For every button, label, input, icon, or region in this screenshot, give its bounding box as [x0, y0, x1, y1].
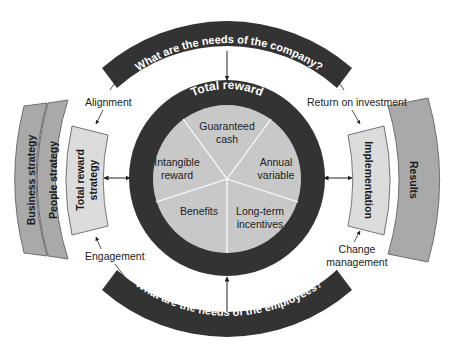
engagement-arrow [96, 237, 101, 249]
alignment-arrow [96, 110, 103, 124]
roi-label: Return on investment [307, 96, 407, 108]
segment-guaranteed-cash-l2: cash [216, 133, 238, 145]
total-reward-strategy-label-2: strategy [87, 159, 99, 200]
implementation-label: Implementation [363, 141, 375, 219]
segment-intangible-reward-l1: Intangible [154, 156, 200, 168]
alignment-label: Alignment [85, 96, 132, 108]
roi-arrow [352, 110, 360, 124]
segment-annual-variable-l1: Annual [260, 156, 293, 168]
segment-guaranteed-cash-l1: Guaranteed [199, 120, 255, 132]
segment-long-term-incentives-l1: Long-term [236, 205, 284, 217]
business-strategy-label: Business strategy [25, 135, 37, 226]
change-management-label-2: management [326, 256, 387, 268]
total-reward-diagram: What are the needs of the company? What … [0, 0, 451, 355]
total-reward-strategy-label-1: Total reward [74, 149, 86, 211]
engagement-label: Engagement [85, 250, 145, 262]
change-management-arrow [354, 231, 360, 242]
segment-intangible-reward-l2: reward [161, 169, 193, 181]
segment-annual-variable-l2: variable [258, 169, 295, 181]
total-reward-circle: Total reward Guaranteed cash Annual vari… [129, 78, 325, 276]
change-management-label-1: Change [339, 243, 376, 255]
left-panels: Business strategy People strategy Total … [15, 100, 108, 259]
segment-long-term-incentives-l2: incentives [237, 218, 284, 230]
right-panels: Implementation Results [348, 98, 439, 262]
segment-benefits: Benefits [180, 205, 218, 217]
people-strategy-label: People strategy [47, 141, 59, 219]
results-label: Results [408, 161, 420, 199]
